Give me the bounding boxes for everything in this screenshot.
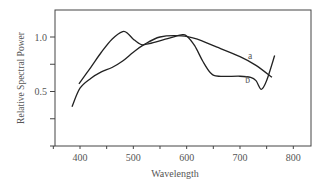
curve-label-a: a [248, 51, 253, 61]
x-tick-label: 500 [126, 152, 141, 163]
y-axis-ticks: 0.51.0 [35, 32, 56, 147]
plot-frame [55, 10, 311, 146]
x-tick-label: 400 [73, 152, 88, 163]
curve-labels: ab [245, 51, 253, 85]
x-tick-label: 700 [232, 152, 247, 163]
series-lines [72, 31, 275, 106]
x-axis-label: Wavelength [151, 168, 199, 179]
y-axis-label: Relative Spectral Power [16, 31, 26, 124]
y-tick-label: 0.5 [35, 86, 48, 97]
x-tick-label: 600 [179, 152, 194, 163]
spectral-power-chart: 0.51.0 400500600700800 ab Wavelength Rel… [0, 0, 326, 189]
series-line-a [72, 36, 272, 107]
y-tick-label: 1.0 [35, 32, 48, 43]
x-axis-ticks: 400500600700800 [53, 146, 300, 163]
curve-label-b: b [245, 75, 250, 85]
x-tick-label: 800 [286, 152, 301, 163]
